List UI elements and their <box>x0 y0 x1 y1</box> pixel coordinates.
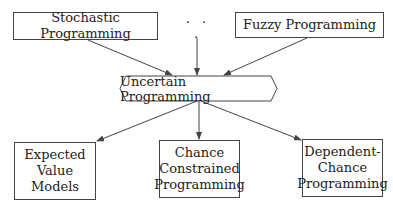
node-chance-constrained-programming: Chance Constrained Programming <box>159 140 240 198</box>
node-label-line: Models <box>31 179 79 195</box>
node-label-line: Dependent- <box>304 144 381 160</box>
node-stochastic-programming: Stochastic Programming <box>13 12 158 40</box>
edge-uncertain-dependent <box>201 101 301 140</box>
node-label-line: Value <box>37 163 73 179</box>
node-label-line: Expected <box>24 147 85 163</box>
edge-fuzzy-uncertain <box>224 38 307 75</box>
node-fuzzy-programming: Fuzzy Programming <box>235 12 384 38</box>
node-label: Fuzzy Programming <box>243 17 376 33</box>
node-label-line: Chance <box>318 160 367 176</box>
edge-stochastic-uncertain <box>88 40 172 75</box>
node-label-line: Chance <box>175 145 224 161</box>
node-label: Stochastic Programming <box>14 10 157 42</box>
node-ellipsis: · · · <box>180 15 216 45</box>
node-label-line: Constrained <box>159 161 240 177</box>
node-uncertain-programming: Uncertain Programming <box>120 76 277 101</box>
node-expected-value-models: Expected Value Models <box>14 142 96 200</box>
node-dependent-chance-programming: Dependent- Chance Programming <box>302 139 383 197</box>
node-label-line: Programming <box>297 176 388 192</box>
edge-uncertain-expected <box>97 101 197 141</box>
node-label-line: Programming <box>154 177 245 193</box>
